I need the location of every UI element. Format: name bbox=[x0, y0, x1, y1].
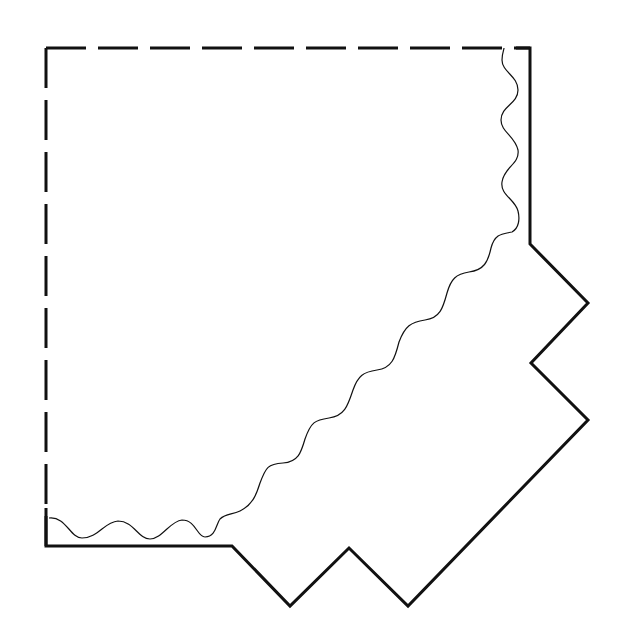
diagram-svg bbox=[0, 0, 624, 637]
diagram-canvas bbox=[0, 0, 624, 637]
wavy-cut-line bbox=[49, 48, 519, 539]
